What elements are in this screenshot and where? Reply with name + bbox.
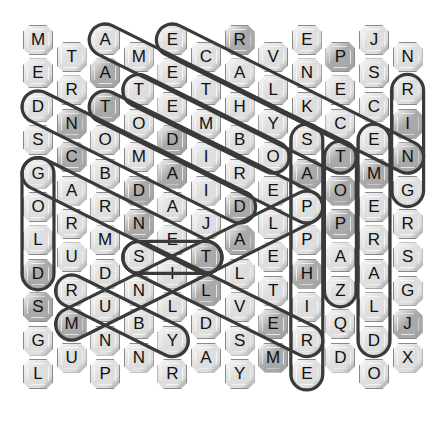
letter-tile[interactable]: D [325,343,355,373]
letter-tile[interactable]: M [359,159,389,189]
letter-tile[interactable]: L [157,292,187,322]
letter-tile[interactable]: I [157,259,187,289]
letter-tile[interactable]: J [191,209,221,239]
letter-tile[interactable]: M [191,109,221,139]
letter-tile[interactable]: R [157,359,187,389]
letter-tile[interactable]: R [90,192,120,222]
letter-tile[interactable]: S [124,242,154,272]
letter-tile[interactable]: E [325,75,355,105]
letter-tile[interactable]: E [258,309,288,339]
letter-tile[interactable]: B [225,125,255,155]
letter-tile[interactable]: G [393,176,423,206]
letter-tile[interactable]: R [57,75,87,105]
letter-tile[interactable]: R [225,159,255,189]
letter-tile[interactable]: A [325,242,355,272]
letter-tile[interactable]: P [292,225,322,255]
letter-tile[interactable]: I [191,142,221,172]
letter-tile[interactable]: E [157,92,187,122]
letter-tile[interactable]: E [258,176,288,206]
letter-tile[interactable]: Y [225,359,255,389]
letter-tile[interactable]: L [23,359,53,389]
letter-tile[interactable]: E [292,359,322,389]
letter-tile[interactable]: U [57,242,87,272]
letter-tile[interactable]: O [90,125,120,155]
letter-tile[interactable]: R [57,276,87,306]
letter-tile[interactable]: R [359,225,389,255]
letter-tile[interactable]: O [124,109,154,139]
letter-tile[interactable]: N [292,58,322,88]
letter-tile[interactable]: V [258,42,288,72]
letter-tile[interactable]: D [23,259,53,289]
letter-tile[interactable]: M [23,25,53,55]
letter-tile[interactable]: A [359,259,389,289]
letter-tile[interactable]: E [23,58,53,88]
letter-tile[interactable]: N [124,209,154,239]
letter-tile[interactable]: H [292,259,322,289]
letter-tile[interactable]: P [90,359,120,389]
letter-tile[interactable]: A [90,58,120,88]
letter-tile[interactable]: T [90,92,120,122]
letter-tile[interactable]: S [225,326,255,356]
letter-tile[interactable]: M [57,309,87,339]
letter-tile[interactable]: R [393,209,423,239]
letter-tile[interactable]: J [359,25,389,55]
letter-tile[interactable]: O [258,142,288,172]
letter-tile[interactable]: S [359,58,389,88]
letter-tile[interactable]: H [225,92,255,122]
letter-tile[interactable]: E [157,225,187,255]
letter-tile[interactable]: I [393,109,423,139]
letter-tile[interactable]: Y [157,326,187,356]
letter-tile[interactable]: P [325,42,355,72]
letter-tile[interactable]: R [292,326,322,356]
letter-tile[interactable]: B [124,309,154,339]
letter-tile[interactable]: M [124,142,154,172]
letter-tile[interactable]: T [191,75,221,105]
letter-tile[interactable]: O [325,176,355,206]
letter-tile[interactable]: E [157,25,187,55]
letter-tile[interactable]: J [393,309,423,339]
letter-tile[interactable]: N [124,343,154,373]
letter-tile[interactable]: L [225,259,255,289]
letter-tile[interactable]: T [258,276,288,306]
letter-tile[interactable]: M [124,42,154,72]
letter-tile[interactable]: G [393,276,423,306]
letter-tile[interactable]: D [157,125,187,155]
letter-tile[interactable]: S [23,125,53,155]
letter-tile[interactable]: E [359,125,389,155]
letter-tile[interactable]: M [258,343,288,373]
letter-tile[interactable]: R [393,75,423,105]
letter-tile[interactable]: K [292,92,322,122]
letter-tile[interactable]: A [90,25,120,55]
letter-tile[interactable]: A [191,343,221,373]
letter-tile[interactable]: D [23,92,53,122]
letter-tile[interactable]: L [258,75,288,105]
letter-tile[interactable]: L [191,276,221,306]
letter-tile[interactable]: L [359,292,389,322]
letter-tile[interactable]: E [258,242,288,272]
letter-tile[interactable]: Z [325,276,355,306]
letter-tile[interactable]: I [292,292,322,322]
letter-tile[interactable]: E [359,192,389,222]
letter-tile[interactable]: P [325,209,355,239]
letter-tile[interactable]: B [90,159,120,189]
letter-tile[interactable]: C [325,109,355,139]
letter-tile[interactable]: N [393,142,423,172]
letter-tile[interactable]: A [157,159,187,189]
letter-tile[interactable]: P [292,192,322,222]
letter-tile[interactable]: D [225,192,255,222]
letter-tile[interactable]: N [124,276,154,306]
letter-tile[interactable]: L [23,225,53,255]
letter-tile[interactable]: N [90,326,120,356]
letter-tile[interactable]: O [359,359,389,389]
letter-tile[interactable]: A [225,225,255,255]
letter-tile[interactable]: D [124,176,154,206]
letter-tile[interactable]: N [57,109,87,139]
letter-tile[interactable]: T [57,42,87,72]
letter-tile[interactable]: D [90,259,120,289]
letter-tile[interactable]: Q [325,309,355,339]
letter-tile[interactable]: S [292,125,322,155]
letter-tile[interactable]: O [23,192,53,222]
letter-tile[interactable]: A [225,58,255,88]
letter-tile[interactable]: A [292,159,322,189]
letter-tile[interactable]: L [258,209,288,239]
